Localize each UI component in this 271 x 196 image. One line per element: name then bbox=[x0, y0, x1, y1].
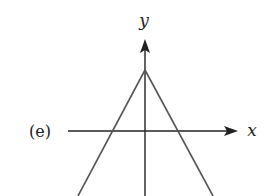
right-line bbox=[145, 70, 213, 196]
panel-label: (e) bbox=[29, 122, 51, 141]
graph-figure: y x (e) bbox=[0, 0, 271, 196]
y-axis-label: y bbox=[138, 10, 149, 30]
left-line bbox=[78, 70, 145, 196]
x-axis-label: x bbox=[247, 120, 257, 140]
